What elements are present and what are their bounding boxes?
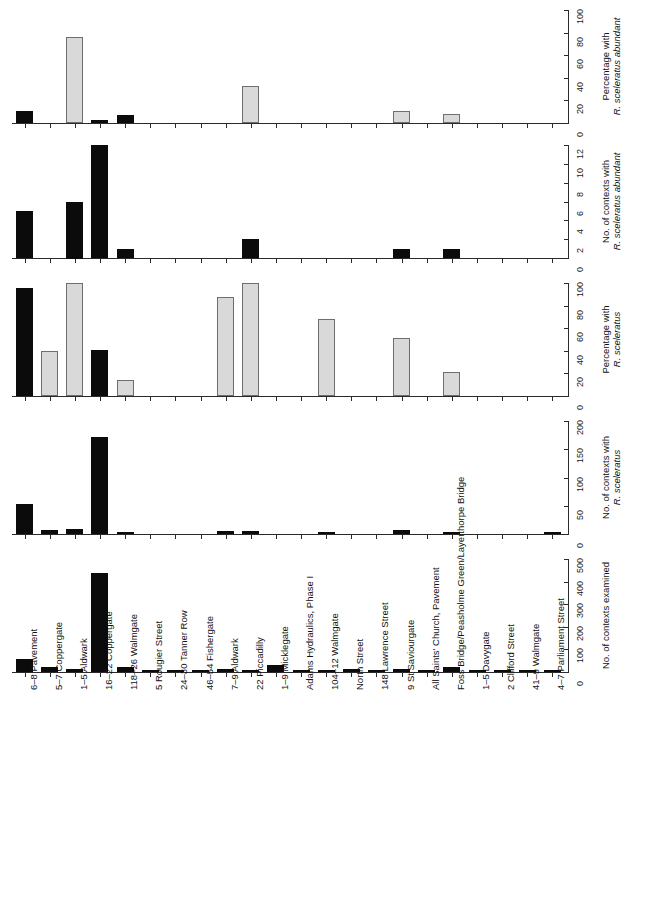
x-tick: [351, 397, 352, 401]
x-tick: [276, 124, 277, 128]
y-axis-title-line1: No. of contexts examined: [600, 559, 611, 672]
x-tick: [75, 259, 76, 263]
y-tick: [564, 478, 568, 479]
y-axis-title-line1: No. of contexts with: [600, 145, 611, 258]
x-tick: [100, 673, 101, 677]
x-axis-label: 24–30 Tanner Row: [179, 610, 189, 690]
y-axis-title: No. of contexts examined: [600, 559, 611, 672]
x-axis-label: All Saints' Church, Pavement: [431, 567, 441, 690]
x-axis-label: Adams Hydraulics, Phase I: [305, 576, 315, 690]
y-tick-label: 100: [576, 9, 585, 24]
x-tick: [502, 124, 503, 128]
x-axis-line: [12, 123, 565, 124]
x-tick: [402, 397, 403, 401]
bar: [443, 249, 460, 258]
y-tick: [564, 123, 568, 124]
y-tick-label: 20: [576, 377, 585, 387]
bar: [66, 37, 83, 123]
y-tick: [564, 559, 568, 560]
bar: [91, 120, 108, 123]
x-tick: [50, 397, 51, 401]
bar: [544, 532, 561, 534]
x-tick: [527, 535, 528, 539]
y-tick: [564, 421, 568, 422]
y-axis-line: [568, 421, 569, 535]
y-tick: [564, 239, 568, 240]
x-tick: [251, 535, 252, 539]
y-tick: [564, 306, 568, 307]
x-tick: [477, 673, 478, 677]
bar: [91, 145, 108, 258]
x-tick: [201, 535, 202, 539]
y-tick-label: 6: [576, 211, 585, 216]
y-axis-title: Percentage withR. sceleratus abundant: [600, 10, 622, 123]
x-axis-label: 2 Clifford Street: [506, 624, 516, 690]
bar: [66, 529, 83, 534]
x-tick: [201, 673, 202, 677]
bar: [91, 437, 108, 534]
y-tick: [564, 183, 568, 184]
x-axis-label: 46–54 Fishergate: [205, 616, 215, 690]
x-tick: [351, 673, 352, 677]
x-tick: [251, 397, 252, 401]
x-axis-line: [12, 258, 565, 259]
x-tick: [201, 124, 202, 128]
x-tick: [427, 535, 428, 539]
x-tick: [552, 673, 553, 677]
y-tick-label: 8: [576, 192, 585, 197]
bar: [66, 283, 83, 396]
bar: [318, 319, 335, 396]
x-tick: [452, 124, 453, 128]
y-tick-label: 80: [576, 37, 585, 47]
y-axis-title-line1: No. of contexts with: [600, 421, 611, 534]
bar: [117, 249, 134, 258]
y-tick-label: 20: [576, 104, 585, 114]
bar: [318, 532, 335, 534]
y-tick-label: 2: [576, 248, 585, 253]
y-tick-label: 10: [576, 168, 585, 178]
y-tick-label: 0: [576, 267, 585, 272]
x-tick: [75, 535, 76, 539]
y-tick: [564, 10, 568, 11]
y-tick: [564, 202, 568, 203]
y-tick: [564, 506, 568, 507]
x-axis-label: 6–8 Pavement: [29, 629, 39, 690]
x-tick: [175, 535, 176, 539]
bar: [117, 380, 134, 396]
x-tick: [100, 259, 101, 263]
y-axis-line: [568, 145, 569, 259]
y-tick-label: 80: [576, 310, 585, 320]
x-tick: [175, 397, 176, 401]
x-tick: [125, 124, 126, 128]
x-tick: [25, 535, 26, 539]
x-tick: [502, 259, 503, 263]
x-axis-label: 5 Rougier Street: [154, 621, 164, 690]
x-tick: [251, 259, 252, 263]
x-tick: [402, 535, 403, 539]
bar: [217, 297, 234, 396]
y-tick-label: 12: [576, 149, 585, 159]
x-tick: [402, 124, 403, 128]
y-tick: [564, 351, 568, 352]
x-tick: [452, 535, 453, 539]
x-tick: [452, 397, 453, 401]
x-tick: [50, 535, 51, 539]
x-tick: [477, 259, 478, 263]
y-tick-label: 50: [576, 510, 585, 520]
x-axis-labels: 6–8 Pavement5–7 Coppergate1–5 Aldwark16–…: [0, 690, 645, 905]
y-axis-line: [568, 283, 569, 397]
x-tick: [527, 397, 528, 401]
bar: [16, 504, 33, 534]
y-axis-title-line2: R. sceleratus abundant: [611, 145, 622, 258]
x-tick: [226, 397, 227, 401]
bar: [117, 115, 134, 123]
x-tick: [150, 397, 151, 401]
x-tick: [276, 673, 277, 677]
y-tick: [564, 328, 568, 329]
x-tick: [402, 259, 403, 263]
x-tick: [50, 673, 51, 677]
x-axis-line: [12, 534, 565, 535]
x-tick: [376, 535, 377, 539]
x-tick: [477, 124, 478, 128]
x-axis-label: 22 Piccadilly: [255, 637, 265, 690]
